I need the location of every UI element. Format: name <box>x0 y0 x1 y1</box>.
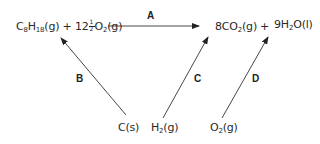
arrow-label-c: C <box>194 73 201 84</box>
arrow-b <box>61 38 126 115</box>
element-carbon: C(s) <box>118 122 139 133</box>
reactants-plus: + <box>63 20 72 33</box>
arrow-label-d: D <box>252 73 259 84</box>
element-hydrogen: H2(g) <box>151 122 178 133</box>
fraction-half: 12 <box>89 21 95 32</box>
arrow-c <box>163 37 208 118</box>
arrow-label-a: A <box>147 10 154 21</box>
arrow-d <box>222 37 268 118</box>
product-co2: 8CO2(g) <box>215 21 257 32</box>
element-oxygen: O2(g) <box>210 122 238 133</box>
octane: C8H18(g) <box>16 20 59 33</box>
arrow-label-b: B <box>76 73 83 84</box>
product-h2o: 9H2O(l) <box>274 19 313 30</box>
oxygen-reactant: 1212O2(g) <box>75 20 122 33</box>
products-plus: + <box>260 21 269 32</box>
reactants: C8H18(g) + 1212O2(g) <box>16 21 122 32</box>
